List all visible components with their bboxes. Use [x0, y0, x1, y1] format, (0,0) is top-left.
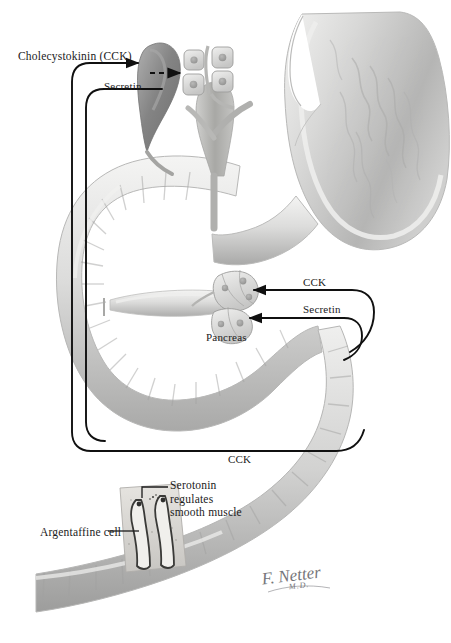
label-pancreas: Pancreas	[206, 331, 247, 343]
pancreas-acinus-upper	[213, 270, 258, 311]
liver-cell	[184, 50, 204, 70]
label-cck-top: Cholecystokinin (CCK)	[18, 50, 132, 62]
label-secretin-right: Secretin	[303, 303, 341, 315]
gallbladder	[138, 43, 181, 174]
illustration-canvas: Cholecystokinin (CCK) Secretin CCK Secre…	[0, 0, 451, 643]
label-serotonin-line2: regulates	[170, 493, 242, 507]
label-serotonin: Serotonin regulates smooth muscle	[170, 479, 242, 520]
label-cck-right: CCK	[303, 276, 326, 288]
liver-cell	[212, 47, 233, 68]
biliary-tree	[138, 43, 251, 228]
pylorus	[212, 196, 318, 265]
label-cck-bottom: CCK	[228, 453, 251, 465]
label-serotonin-line1: Serotonin	[170, 479, 242, 493]
liver-cell	[212, 71, 233, 92]
label-serotonin-line3: smooth muscle	[170, 506, 242, 520]
liver-cell	[183, 74, 204, 95]
label-secretin-top: Secretin	[104, 80, 142, 92]
anatomy-illustration	[0, 0, 451, 643]
label-argentaffine-cell: Argentaffine cell	[40, 526, 121, 538]
